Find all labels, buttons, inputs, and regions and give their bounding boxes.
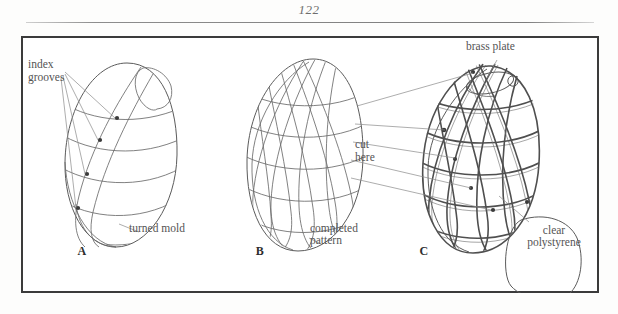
header-rule (26, 22, 594, 23)
label-completed: completed (310, 222, 358, 235)
label-brass-plate: brass plate (466, 40, 515, 53)
index-groove-dot (98, 138, 102, 142)
label-grooves: grooves (28, 71, 64, 84)
label-turned-mold: turned mold (129, 222, 185, 235)
cage-node (491, 208, 495, 212)
index-groove-dot (115, 116, 119, 120)
panel-letter-a: A (70, 245, 94, 258)
panel-letter-c: C (412, 245, 436, 258)
label-polystyrene: polystyrene (516, 236, 592, 249)
index-groove-dot (85, 172, 89, 176)
book-page: 122 .ln { fill:none; stroke:#6a6a6a; str… (0, 0, 618, 314)
page-number: 122 (0, 2, 618, 18)
figure-artwork: .ln { fill:none; stroke:#6a6a6a; stroke-… (21, 36, 599, 293)
label-index: index (28, 58, 54, 71)
label-clear: clear (524, 224, 584, 237)
index-groove-dot (76, 206, 80, 210)
label-pattern: pattern (310, 234, 342, 247)
cage-node (525, 200, 529, 204)
panel-c-cage (351, 60, 581, 293)
panel-letter-b: B (248, 245, 272, 258)
label-cut: cut (355, 138, 369, 151)
panel-a-mold (55, 63, 183, 247)
label-here: here (355, 151, 375, 164)
